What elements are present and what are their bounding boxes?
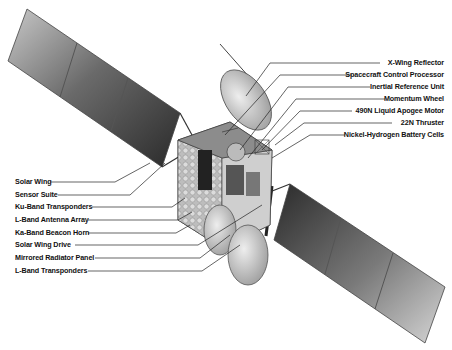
label-sensor-suite: Sensor Suite	[15, 190, 58, 199]
label-solar-wing: Solar Wing	[15, 177, 51, 186]
satellite-diagram: X-Wing Reflector Spacecraft Control Proc…	[0, 0, 452, 350]
label-liquid-apogee-motor: 490N Liquid Apogee Motor	[356, 106, 444, 115]
label-spacecraft-control-processor: Spacecraft Control Processor	[345, 70, 444, 79]
label-l-band-transponders: L-Band Transponders	[15, 266, 87, 275]
left-solar-wing	[8, 9, 192, 167]
label-ku-band-transponders: Ku-Band Transponders	[15, 202, 92, 211]
label-solar-wing-drive: Solar Wing Drive	[15, 240, 71, 249]
label-battery-cells: Nickel-Hydrogen Battery Cells	[344, 130, 444, 139]
label-inertial-reference-unit: Inertial Reference Unit	[370, 82, 444, 91]
label-l-band-antenna-array: L-Band Antenna Array	[15, 215, 89, 224]
label-22n-thruster: 22N Thruster	[401, 118, 444, 127]
satellite-illustration	[0, 0, 452, 350]
label-ka-band-beacon-horn: Ka-Band Beacon Horn	[15, 228, 89, 237]
label-x-wing-reflector: X-Wing Reflector	[388, 58, 444, 67]
right-solar-wing	[262, 184, 445, 343]
label-mirrored-radiator-panel: Mirrored Radiator Panel	[15, 253, 94, 262]
label-momentum-wheel: Momentum Wheel	[384, 94, 444, 103]
